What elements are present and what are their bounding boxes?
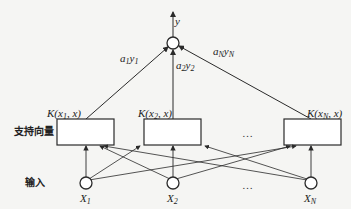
diagram-lines <box>0 0 351 209</box>
input-label-1: X1 <box>80 193 91 206</box>
kernel-label-n: K(xN, x) <box>307 108 342 121</box>
kernel-box-1 <box>57 119 114 145</box>
weight-label-2: a2y2 <box>176 60 194 73</box>
input-node-1 <box>80 177 92 189</box>
box-ellipsis: … <box>242 128 253 139</box>
kernel-box-n <box>284 119 341 145</box>
input-node-2 <box>167 177 179 189</box>
input-node-n <box>305 177 317 189</box>
support-vectors-label: 支持向量 <box>14 127 54 137</box>
weight-label-n: aNyN <box>213 46 234 59</box>
input-label-2: X2 <box>167 193 178 206</box>
input-ellipsis: … <box>242 180 253 191</box>
svm-network-diagram: y a1y1 a2y2 aNyN K(x1, x) K(x2, x) K(xN,… <box>0 0 351 209</box>
output-label: y <box>175 16 180 27</box>
weight-label-1: a1y1 <box>120 53 138 66</box>
kernel-label-2: K(x2, x) <box>138 108 172 121</box>
input-label-n: XN <box>304 193 316 206</box>
kernel-box-2 <box>144 119 201 145</box>
input-row-label: 输入 <box>25 178 45 188</box>
output-node <box>167 37 179 49</box>
kernel-label-1: K(x1, x) <box>47 108 81 121</box>
